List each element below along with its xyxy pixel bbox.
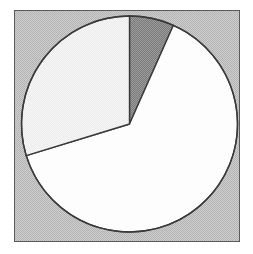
pie-chart-figure: [0, 0, 253, 254]
pie-chart-svg: [0, 0, 253, 254]
pie-slices-group: [21, 16, 237, 232]
